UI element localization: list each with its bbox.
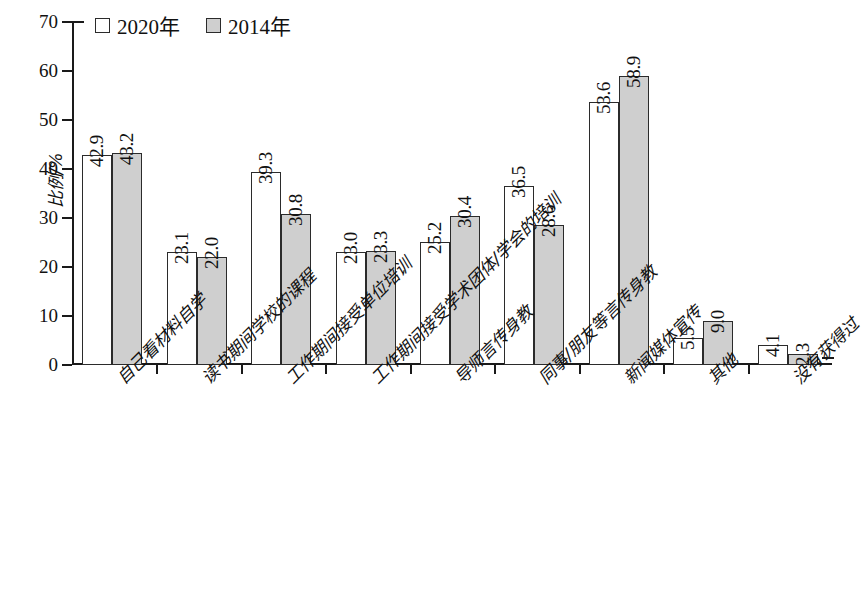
x-axis-category-label: 导师言传身教 xyxy=(452,303,536,387)
x-axis-category-label: 没有获得过 xyxy=(790,315,862,387)
x-axis-category-label: 新闻媒体宣传 xyxy=(621,303,705,387)
x-axis-category-label: 自己看材料自学 xyxy=(114,291,210,387)
x-axis-category-label: 其他 xyxy=(705,351,741,387)
